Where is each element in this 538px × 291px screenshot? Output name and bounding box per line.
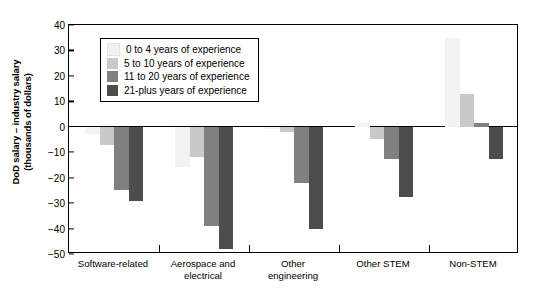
bar [370,127,385,140]
bar [280,127,295,132]
bar [309,127,324,229]
x-axis-label-line2: engineering [248,270,338,282]
legend-swatch-icon [107,71,118,82]
bar [294,127,309,183]
y-tick-label: −10 [25,147,65,158]
x-axis-label-line1: Software-related [68,258,158,270]
y-tick-label: −50 [25,249,65,260]
bar [100,127,115,145]
bar [399,127,414,197]
y-tick-label: −20 [25,172,65,183]
legend-item: 0 to 4 years of experience [107,43,249,57]
legend-label: 0 to 4 years of experience [126,44,241,55]
y-tick-mark [69,228,74,229]
bar [129,127,144,201]
x-axis-label: Aerospace andelectrical [158,258,248,281]
x-group-separator [249,245,250,252]
y-tick-mark [69,50,74,51]
y-tick-label: 30 [25,45,65,56]
bar [460,94,475,127]
y-tick-mark [69,24,74,25]
bar [384,127,399,159]
y-tick-mark [69,152,74,153]
bar [175,127,190,168]
x-axis-label: Software-related [68,258,158,270]
legend-swatch-icon [107,85,118,96]
y-tick-label: 40 [25,20,65,31]
legend-item: 21-plus years of experience [107,84,249,98]
legend: 0 to 4 years of experience5 to 10 years … [100,38,259,102]
bar [190,127,205,158]
bar [85,127,100,135]
x-axis-label: Non-STEM [428,258,518,270]
x-axis-label-line1: Other [248,258,338,270]
y-tick-mark [69,253,74,254]
legend-item: 11 to 20 years of experience [107,70,249,84]
bar [204,127,219,226]
legend-label: 11 to 20 years of experience [124,71,249,82]
x-axis-label-line2: electrical [158,270,248,282]
legend-swatch-icon [107,43,120,56]
y-tick-label: 0 [25,121,65,132]
x-axis-label: Other STEM [338,258,428,270]
y-tick-label: −40 [25,223,65,234]
y-tick-mark [69,177,74,178]
bar [219,127,234,249]
bar [445,38,460,127]
bar [355,123,370,127]
x-group-separator [339,245,340,252]
y-tick-label: 20 [25,70,65,81]
legend-item: 5 to 10 years of experience [107,57,249,71]
y-tick-mark [69,101,74,102]
x-group-separator [159,245,160,252]
x-group-separator [429,245,430,252]
legend-label: 21-plus years of experience [124,85,247,96]
bar [489,127,504,159]
y-tick-label: −30 [25,198,65,209]
y-tick-mark [69,75,74,76]
bar-chart: DoD salary – industry salary (thousands … [0,0,538,291]
x-axis-label-line1: Aerospace and [158,258,248,270]
x-axis-label-line1: Other STEM [338,258,428,270]
legend-swatch-icon [107,58,118,69]
bar [114,127,129,191]
x-axis-label: Otherengineering [248,258,338,281]
bar [265,127,280,130]
y-tick-mark [69,203,74,204]
y-tick-label: 10 [25,96,65,107]
legend-label: 5 to 10 years of experience [124,58,245,69]
bar [474,123,489,127]
y-axis-title-line1: DoD salary – industry salary [10,6,22,238]
x-axis-label-line1: Non-STEM [428,258,518,270]
